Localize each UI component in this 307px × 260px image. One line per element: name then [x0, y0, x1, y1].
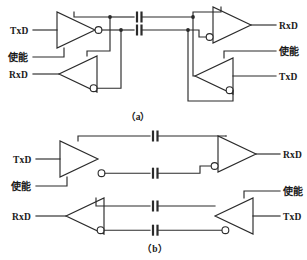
caption-a: （a） — [126, 111, 151, 122]
label-a-txd-left: TxD — [10, 26, 29, 36]
left-receiver-in-top-wire — [87, 17, 110, 56]
label-a-enable-right: 使能 — [278, 45, 299, 57]
left-receiver[interactable] — [59, 56, 97, 92]
right-receiver-bubble — [206, 34, 213, 41]
label-a-rxd-right: RxD — [279, 21, 298, 31]
panel-b: TxD 使能 RxD RxD 使能 TxD （b） — [10, 131, 303, 255]
lower-driver[interactable] — [215, 198, 253, 234]
label-b-rxd-lower: RxD — [12, 212, 31, 222]
lower-capacitor-bottom — [153, 225, 158, 236]
label-b-enable-upper: 使能 — [10, 180, 31, 192]
left-receiver-bubble — [90, 85, 97, 92]
upper-top-rail-left — [78, 136, 150, 141]
label-b-enable-lower: 使能 — [282, 185, 303, 197]
label-b-rxd-upper: RxD — [283, 150, 302, 160]
label-a-rxd-left: RxD — [9, 70, 28, 80]
left-driver-bubble — [95, 27, 102, 34]
left-driver-enable-wire — [33, 48, 64, 57]
figure-canvas: TxD 使能 RxD RxD 使能 TxD （a） — [0, 0, 307, 260]
lower-driver-bubble — [222, 227, 229, 234]
right-driver-top-out-wire — [193, 17, 195, 76]
panel-a: TxD 使能 RxD RxD 使能 TxD （a） — [7, 7, 299, 122]
lower-capacitor-top — [153, 201, 158, 212]
lower-receiver[interactable] — [66, 198, 104, 234]
upper-driver[interactable] — [60, 141, 105, 177]
label-a-txd-right: TxD — [279, 72, 298, 82]
coupling-capacitor-top-a — [137, 12, 142, 23]
left-receiver-in-bot-wire — [97, 30, 121, 88]
caption-b: （b） — [142, 243, 167, 254]
right-receiver-in-bot-wire — [188, 30, 206, 37]
left-driver-top-out-wire — [74, 12, 110, 17]
right-driver-bubble — [226, 87, 233, 94]
upper-receiver[interactable] — [211, 136, 256, 172]
upper-capacitor-top — [153, 131, 158, 142]
upper-capacitor-bottom — [153, 168, 158, 179]
label-b-txd-lower: TxD — [283, 212, 302, 222]
right-driver[interactable] — [195, 58, 233, 94]
right-driver-enable-wire — [224, 51, 276, 58]
lower-driver-enable-wire — [244, 191, 280, 198]
upper-bot-rail-right — [158, 166, 212, 173]
upper-receiver-bubble — [211, 163, 218, 170]
lower-receiver-bubble — [97, 227, 104, 234]
label-a-enable-left: 使能 — [7, 51, 28, 63]
upper-driver-bubble — [98, 170, 105, 177]
upper-driver-enable-wire — [36, 177, 67, 186]
label-b-txd-upper: TxD — [13, 155, 32, 165]
coupling-capacitor-bottom-a — [137, 25, 142, 36]
